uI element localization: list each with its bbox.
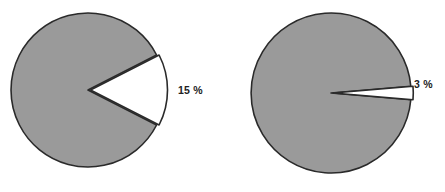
charts-canvas: 15 % 3 % — [0, 0, 445, 192]
pie-chart-figure: 15 % 3 % — [0, 0, 445, 192]
left-pie-chart: 15 % — [11, 13, 203, 167]
left-pie-percent-label: 15 % — [178, 84, 203, 96]
right-pie-chart: 3 % — [251, 13, 433, 173]
right-pie-percent-label: 3 % — [414, 78, 433, 90]
